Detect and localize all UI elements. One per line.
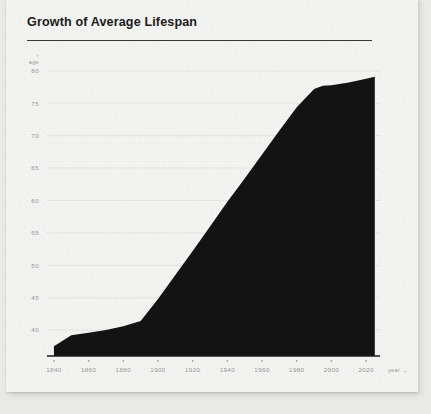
chart-tick-marks [53, 360, 367, 362]
chart-area-series [54, 77, 375, 356]
chart-y-tick-labels: 404550556065707580 [31, 67, 39, 333]
x-axis-label: year → [388, 367, 408, 373]
y-tick-label: 70 [31, 132, 39, 139]
x-tick-dot [53, 360, 55, 362]
y-tick-label: 80 [31, 67, 39, 74]
y-tick-label: 75 [31, 100, 39, 107]
y-tick-label: 60 [31, 197, 39, 204]
y-tick-label: 40 [31, 326, 39, 333]
x-tick-label: 1980 [289, 366, 305, 373]
x-tick-dot [192, 360, 194, 362]
y-axis-label: age [29, 59, 39, 65]
lifespan-area-chart: 404550556065707580 184018601880190019201… [6, 0, 418, 392]
y-tick-label: 50 [31, 262, 39, 269]
page-title: Growth of Average Lifespan [27, 14, 197, 29]
x-tick-label: 1860 [81, 366, 97, 373]
screenshot-root: Growth of Average Lifespan 4045505560657… [0, 0, 431, 414]
x-tick-dot [296, 360, 298, 362]
x-tick-dot [365, 360, 367, 362]
x-tick-label: 1880 [116, 366, 132, 373]
chart-plot-area: 404550556065707580 184018601880190019201… [6, 0, 418, 392]
x-tick-dot [122, 360, 124, 362]
chart-card: Growth of Average Lifespan 4045505560657… [6, 0, 418, 392]
title-divider [27, 40, 372, 41]
x-tick-dot [157, 360, 159, 362]
x-tick-dot [226, 360, 228, 362]
x-tick-dot [88, 360, 90, 362]
y-tick-label: 55 [31, 229, 39, 236]
y-tick-label: 45 [31, 294, 39, 301]
x-tick-dot [331, 360, 333, 362]
x-tick-label: 1960 [254, 366, 270, 373]
x-tick-label: 1900 [150, 366, 166, 373]
x-tick-label: 2000 [324, 366, 340, 373]
x-tick-dot [261, 360, 263, 362]
x-tick-label: 1920 [185, 366, 201, 373]
x-tick-label: 2020 [358, 366, 374, 373]
area-series-path [54, 77, 375, 356]
y-tick-label: 65 [31, 164, 39, 171]
x-tick-label: 1840 [46, 366, 62, 373]
chart-x-tick-labels: 1840186018801900192019401960198020002020 [46, 366, 374, 373]
x-tick-label: 1940 [220, 366, 236, 373]
